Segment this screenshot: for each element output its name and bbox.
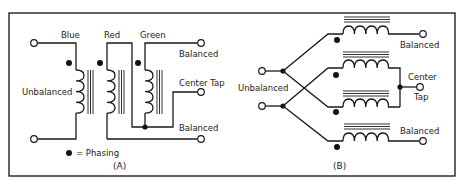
coil-b3-winding [343, 99, 400, 107]
transformer-balun-diagram: Blue Red Green Unbalanced Balanced Cente… [0, 0, 465, 186]
label-green: Green [140, 30, 166, 40]
phasing-dot-icon [334, 37, 340, 43]
terminal-unbalanced-bottom [31, 136, 38, 143]
phasing-dot-icon [97, 60, 103, 66]
coil-b1-core [344, 17, 390, 22]
coil-2-winding [107, 70, 115, 113]
coil-b4-core [344, 124, 390, 129]
terminal-center-tap [198, 89, 205, 96]
phasing-dot-icon [135, 60, 141, 66]
coil-b1-winding [343, 26, 419, 34]
legend-phasing: = Phasing [76, 148, 119, 158]
terminal-unbalanced-top [31, 40, 38, 47]
blue-wire [37, 43, 76, 70]
coil-2-core [119, 70, 124, 114]
panel-a-caption: (A) [113, 161, 126, 171]
label-unbalanced: Unbalanced [238, 83, 288, 93]
phasing-dot-icon [334, 144, 340, 150]
junction-dot-icon [142, 124, 147, 129]
label-red: Red [104, 30, 120, 40]
coil-1-winding [76, 70, 84, 113]
label-balanced-top: Balanced [400, 40, 439, 50]
label-center: Center [408, 72, 437, 82]
phasing-dot-icon [333, 72, 339, 78]
label-blue: Blue [61, 30, 80, 40]
legend-dot-icon [66, 150, 72, 156]
feed-coil-1 [283, 34, 343, 71]
terminal-balanced-bottom [198, 136, 205, 143]
coil-b2-core [343, 52, 389, 57]
terminal-unbalanced-top [259, 68, 266, 75]
label-balanced-bottom: Balanced [400, 126, 439, 136]
terminal-balanced-bottom [420, 138, 427, 145]
coil-1-core [88, 70, 93, 114]
label-balanced-bottom: Balanced [179, 123, 218, 133]
terminal-center-tap [417, 84, 424, 91]
junction-dot-icon [397, 84, 402, 89]
label-unbalanced: Unbalanced [22, 87, 72, 97]
label-balanced-top: Balanced [179, 49, 218, 59]
label-tap: Tap [413, 92, 428, 102]
phasing-dot-icon [66, 60, 72, 66]
coil-3-core [157, 70, 162, 114]
coil-b3-core [343, 91, 389, 96]
label-center-tap: Center Tap [179, 78, 225, 88]
panel-a: Blue Red Green Unbalanced Balanced Cente… [22, 30, 225, 171]
panel-b-caption: (B) [333, 161, 346, 171]
coil-3-winding [145, 70, 153, 113]
panel-b: Unbalanced Balanced Center Tap Balanced … [238, 17, 439, 171]
phasing-dot-icon [333, 109, 339, 115]
terminal-balanced-top [420, 31, 427, 38]
blue-return-wire [37, 113, 76, 139]
terminal-balanced-top [198, 40, 205, 47]
terminal-unbalanced-bottom [259, 103, 266, 110]
